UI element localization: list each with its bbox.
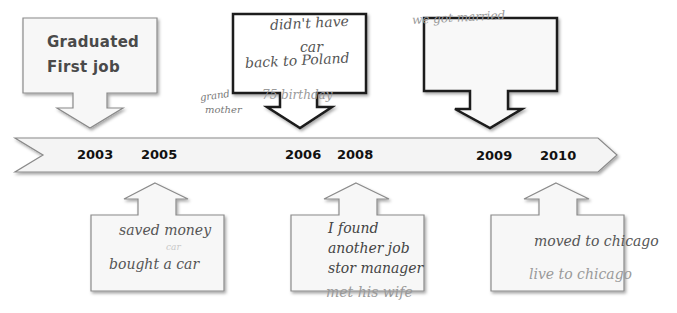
callout-text: stor manager	[328, 260, 423, 276]
callout-text: bought a car	[109, 256, 199, 272]
year-label: 2005	[141, 147, 177, 162]
callout-text: another job	[328, 240, 410, 256]
year-label: 2009	[476, 148, 512, 163]
callout-text: First job	[47, 58, 120, 76]
year-label: 2003	[77, 147, 113, 162]
down-arrow-callout-2009	[424, 18, 557, 128]
side-note: mother	[205, 104, 242, 115]
callout-text: 75 birthday	[262, 88, 333, 102]
callout-text: Graduated	[47, 33, 139, 51]
callout-text: live to chicago	[529, 266, 632, 282]
year-label: 2010	[540, 148, 576, 163]
callout-text: saved money	[119, 222, 211, 238]
year-label: 2008	[337, 147, 373, 162]
callout-text: I found	[328, 220, 379, 236]
callout-text: car	[166, 242, 181, 252]
year-label: 2006	[285, 147, 321, 162]
callout-text: met his wife	[326, 284, 413, 300]
callout-text: moved to chicago	[534, 233, 659, 249]
